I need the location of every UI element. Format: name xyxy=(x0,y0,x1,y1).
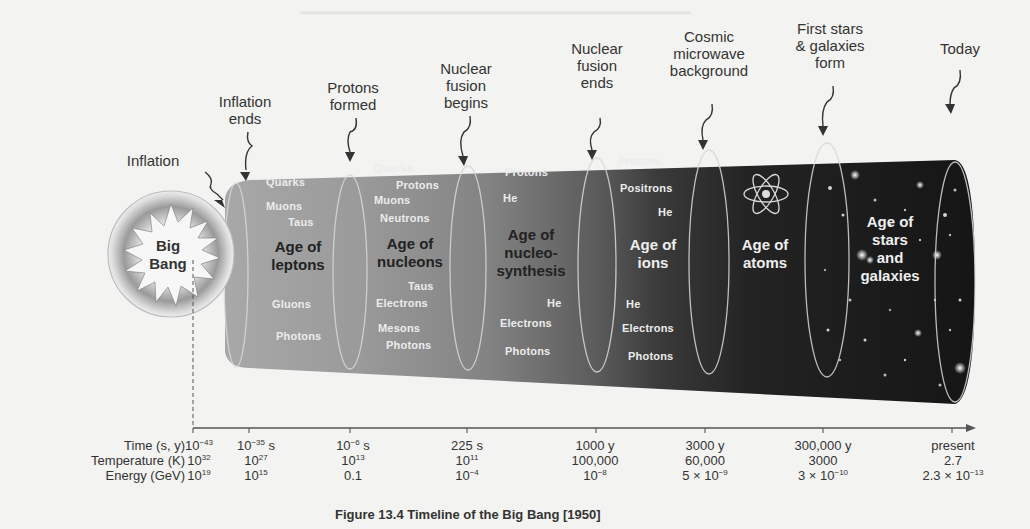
particle-label: Muons xyxy=(266,200,302,212)
event-line: microwave xyxy=(670,45,748,62)
particle-label: Taus xyxy=(408,280,434,292)
event-line: begins xyxy=(440,94,492,111)
tick-energy-value: 0.1 xyxy=(336,468,370,483)
particle-label: He xyxy=(626,298,640,310)
row-label-energy: Energy (GeV) xyxy=(106,468,185,483)
exponent: −10 xyxy=(834,468,848,477)
particle-label: He xyxy=(658,206,672,218)
exponent: 19 xyxy=(202,468,211,477)
age-title-line: synthesis xyxy=(496,262,565,280)
exponent: 32 xyxy=(202,453,211,462)
tick-temperature-value: 60,000 xyxy=(682,453,728,468)
event-today: Today xyxy=(940,40,980,57)
event-line: Inflation xyxy=(127,152,180,169)
age-title-line: Age of xyxy=(496,226,565,244)
tick-column: present2.72.3 × 10−13 xyxy=(923,438,984,483)
event-line: Protons xyxy=(327,79,379,96)
event-line: Nuclear xyxy=(440,60,492,77)
age-title: Age of nucleo- synthesis xyxy=(496,226,565,280)
particle-label: Photons xyxy=(386,339,431,351)
particle-label: Protons xyxy=(618,155,661,167)
particle-label: Gluons xyxy=(272,298,311,310)
row-label-temperature: Temperature (K) xyxy=(91,453,185,468)
age-title-line: Age of xyxy=(860,213,919,231)
exponent: 11 xyxy=(470,453,478,462)
timeline-row-labels: Time (s, y) Temperature (K) Energy (GeV) xyxy=(0,438,185,498)
age-of-atoms: Age of atoms xyxy=(742,236,789,272)
event-line: fusion xyxy=(440,77,492,94)
event-nuclear-fusion-ends: Nuclear fusion ends xyxy=(571,40,623,91)
tick-temperature-value: 3000 xyxy=(794,453,851,468)
tick-energy-value: 10−4 xyxy=(451,468,483,483)
age-title-line: nucleons xyxy=(377,253,443,271)
big-bang-line: Big xyxy=(149,237,187,255)
particle-label: Electrons xyxy=(376,297,428,309)
particle-label: Taus xyxy=(288,216,314,228)
tick-time-value: 10−43 xyxy=(185,438,213,453)
exponent: 15 xyxy=(259,468,268,477)
particle-label: Protons xyxy=(396,179,439,191)
particle-label: Electrons xyxy=(622,322,674,334)
age-title-line: and xyxy=(860,249,919,267)
event-inflation-ends: Inflation ends xyxy=(219,93,272,127)
tick-energy-value: 1019 xyxy=(185,468,213,483)
age-title-line: Age of xyxy=(742,236,789,254)
tick-time-value: 300,000 y xyxy=(794,438,851,453)
tick-energy-value: 10−8 xyxy=(572,468,619,483)
age-title-line: Age of xyxy=(630,236,677,254)
tick-time-value: present xyxy=(923,438,984,453)
event-first-stars-galaxies: First stars & galaxies form xyxy=(795,20,864,71)
event-nuclear-fusion-begins: Nuclear fusion begins xyxy=(440,60,492,111)
event-line: & galaxies xyxy=(795,37,864,54)
exponent: −6 xyxy=(351,438,360,447)
tick-column: 3000 y60,0005 × 10−9 xyxy=(682,438,728,483)
exponent: −35 xyxy=(251,438,265,447)
tick-temperature-value: 1032 xyxy=(185,453,213,468)
big-bang-line: Bang xyxy=(149,255,187,273)
particle-label: Photons xyxy=(628,350,673,362)
tick-time-value: 3000 y xyxy=(682,438,728,453)
event-line: background xyxy=(670,62,748,79)
event-line: formed xyxy=(327,96,379,113)
exponent: −9 xyxy=(719,468,728,477)
event-line: ends xyxy=(219,110,272,127)
event-line: Nuclear xyxy=(571,40,623,57)
age-title-line: ions xyxy=(630,254,677,272)
event-line: fusion xyxy=(571,57,623,74)
tick-temperature-value: 1013 xyxy=(336,453,370,468)
tick-time-value: 225 s xyxy=(451,438,483,453)
age-title-line: atoms xyxy=(742,254,789,272)
row-label-time: Time (s, y) xyxy=(124,438,185,453)
event-cosmic-microwave-background: Cosmic microwave background xyxy=(670,28,748,79)
event-line: Today xyxy=(940,40,980,57)
tick-column: 10−4310321019 xyxy=(185,438,213,483)
exponent: 13 xyxy=(356,453,365,462)
event-line: First stars xyxy=(795,20,864,37)
tick-temperature-value: 100,000 xyxy=(572,453,619,468)
tick-column: 300,000 y30003 × 10−10 xyxy=(794,438,851,483)
particle-label: Muons xyxy=(374,194,410,206)
event-line: ends xyxy=(571,74,623,91)
particle-label: Photons xyxy=(505,345,550,357)
tick-temperature-value: 1011 xyxy=(451,453,483,468)
tick-column: 10−6 s10130.1 xyxy=(336,438,370,483)
age-title-line: nucleo- xyxy=(496,244,565,262)
big-bang-timeline-figure: ▁▁▁▁▁▁▁▁▁▁▁▁▁▁▁▁▁▁▁▁▁▁▁▁▁▁▁▁▁▁ xyxy=(0,0,1030,529)
age-title-line: Age of xyxy=(377,235,443,253)
tick-time-value: 10−35 s xyxy=(237,438,275,453)
tick-energy-value: 5 × 10−9 xyxy=(682,468,728,483)
tick-energy-value: 1015 xyxy=(237,468,275,483)
age-title-line: stars xyxy=(860,231,919,249)
exponent: 27 xyxy=(259,453,268,462)
tick-temperature-value: 1027 xyxy=(237,453,275,468)
particle-label: Positrons xyxy=(620,182,673,194)
tick-column: 10−35 s10271015 xyxy=(237,438,275,483)
timeline-axis xyxy=(193,424,976,433)
exponent: −8 xyxy=(598,468,607,477)
tick-energy-value: 2.3 × 10−13 xyxy=(923,468,984,483)
tick-column: 1000 y100,00010−8 xyxy=(572,438,619,483)
particle-label: He xyxy=(547,297,561,309)
particle-label: Quarks xyxy=(266,176,305,188)
tick-temperature-value: 2.7 xyxy=(923,453,984,468)
event-inflation: Inflation xyxy=(127,152,180,169)
